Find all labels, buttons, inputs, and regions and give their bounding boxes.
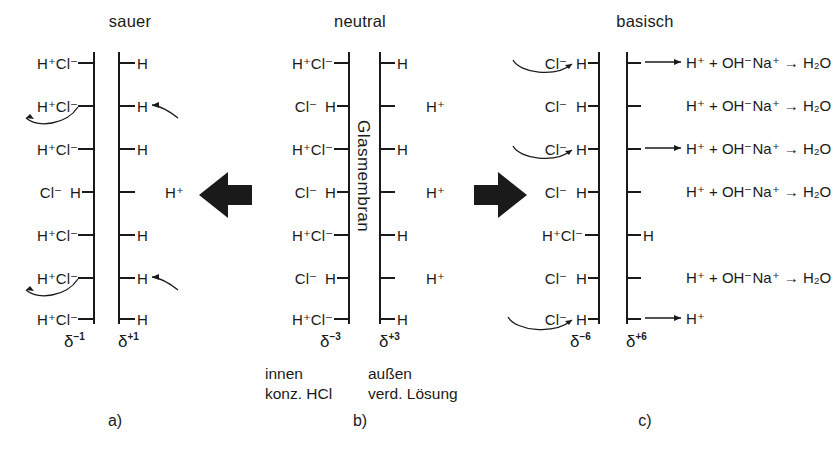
panel-a-row3-left: H⁺Cl⁻ xyxy=(0,142,78,157)
panel-b-row3-inner-tick xyxy=(334,148,349,150)
panel-b-row6-inner-tick xyxy=(337,277,349,279)
panel-c-delta-inner-charge: −6 xyxy=(579,331,590,342)
panel-b-delta-outer-charge: +3 xyxy=(388,331,399,342)
panel-c-row2-left: Cl⁻ xyxy=(510,99,567,114)
panel-b-caption: b) xyxy=(260,412,460,430)
panel-b-row3-outer: H xyxy=(397,142,408,157)
panel-c-row4-outer-tick xyxy=(627,191,641,193)
panel-c-row2-outer-tick xyxy=(627,105,641,107)
panel-a-row6-outer-tick xyxy=(119,277,135,279)
panel-b-row5-left: H⁺Cl⁻ xyxy=(260,228,333,243)
panel-b-row1-outer: H xyxy=(397,56,408,71)
panel-c-row1-left: Cl⁻ xyxy=(510,56,567,71)
panel-a-row7-inner-tick xyxy=(78,318,94,320)
panel-c-row7-inner-tick xyxy=(588,318,599,320)
panel-b-delta-outer: δ+3 xyxy=(379,332,400,352)
panel-basisch: basisch Cl⁻ H H⁺ + OH⁻Na⁺ → H₂O Cl⁻ H H⁺… xyxy=(500,0,836,453)
panel-c-row5-outer-tick xyxy=(627,234,641,236)
panel-c-row3-inner: H xyxy=(576,142,587,157)
panel-c-row6-inner: H xyxy=(576,271,587,286)
panel-b-row4-inner: H xyxy=(325,185,336,200)
panel-c-row7-inner: H xyxy=(576,312,587,327)
panel-c-row1-reaction: H⁺ + OH⁻Na⁺ → H₂O xyxy=(686,55,831,70)
panel-a-row1-outer-tick xyxy=(119,62,135,64)
panel-a-row2-outer: H xyxy=(137,99,148,114)
panel-b-membrane-inner-line xyxy=(348,52,350,324)
panel-b-membrane-label: Glasmembran xyxy=(353,120,373,232)
panel-a-row2-left: H⁺Cl⁻ xyxy=(0,99,78,114)
panel-c-row1-inner-tick xyxy=(588,62,599,64)
panel-b-row7-inner-tick xyxy=(334,318,349,320)
panel-c-row4-left: Cl⁻ xyxy=(510,185,567,200)
panel-b-note-outer-line1: außen xyxy=(368,364,458,384)
panel-b-row7-outer-tick xyxy=(380,318,395,320)
panel-a-row5-outer: H xyxy=(137,228,148,243)
panel-c-row6-reaction: H⁺ + OH⁻Na⁺ → H₂O xyxy=(686,270,831,285)
panel-b-row7-left: H⁺Cl⁻ xyxy=(260,312,333,327)
panel-b-row6-outer-tick xyxy=(380,277,395,279)
panel-a-row1-inner-tick xyxy=(78,62,94,64)
panel-b-note-inner-line1: innen xyxy=(265,364,332,384)
panel-b-row4-outer-tick xyxy=(380,191,395,193)
panel-c-caption: c) xyxy=(500,412,790,430)
panel-b-row6-right: H⁺ xyxy=(426,271,445,286)
panel-a-row6-outer: H xyxy=(137,271,148,286)
panel-a-delta-inner: δ−1 xyxy=(64,332,85,352)
panel-c-delta-outer: δ+6 xyxy=(626,332,647,352)
panel-a-row7-outer: H xyxy=(137,312,148,327)
panel-a-row3-outer-tick xyxy=(119,148,135,150)
panel-a-caption: a) xyxy=(0,412,230,430)
panel-c-row7-reaction: H⁺ xyxy=(686,311,705,326)
panel-a-membrane-outer-line xyxy=(118,52,120,324)
panel-c-row2-inner-tick xyxy=(588,105,599,107)
panel-a-row3-outer: H xyxy=(137,142,148,157)
panel-b-row2-inner-tick xyxy=(337,105,349,107)
panel-a-row3-inner-tick xyxy=(78,148,94,150)
panel-b-delta-inner-charge: −3 xyxy=(329,331,340,342)
panel-b-note-inner: innen konz. HCl xyxy=(265,364,332,404)
panel-neutral: neutral Glasmembran H⁺Cl⁻ H Cl⁻ H H⁺ H⁺C… xyxy=(260,0,490,453)
panel-c-row6-outer-tick xyxy=(627,277,641,279)
panel-c-title: basisch xyxy=(500,12,790,31)
panel-a-row1-left: H⁺Cl⁻ xyxy=(0,56,78,71)
panel-c-row6-inner-tick xyxy=(588,277,599,279)
panel-c-row3-reaction: H⁺ + OH⁻Na⁺ → H₂O xyxy=(686,141,831,156)
panel-b-row3-left: H⁺Cl⁻ xyxy=(260,142,333,157)
panel-a-row5-outer-tick xyxy=(119,234,135,236)
panel-b-title: neutral xyxy=(260,12,460,31)
panel-a-row6-inner-tick xyxy=(78,277,94,279)
panel-c-row3-outer-tick xyxy=(627,148,641,150)
panel-b-row4-right: H⁺ xyxy=(426,185,445,200)
panel-a-row4-inner-tick xyxy=(82,191,94,193)
panel-b-row2-outer-tick xyxy=(380,105,395,107)
panel-a-row2-inner-tick xyxy=(78,105,94,107)
panel-b-row2-inner: H xyxy=(325,99,336,114)
panel-b-note-inner-line2: konz. HCl xyxy=(265,384,332,404)
panel-b-row5-outer: H xyxy=(397,228,408,243)
panel-c-row5-left: H⁺Cl⁻ xyxy=(510,228,583,243)
panel-c-row4-reaction: H⁺ + OH⁻Na⁺ → H₂O xyxy=(686,184,831,199)
panel-a-row4-right: H⁺ xyxy=(165,185,184,200)
panel-b-row4-left: Cl⁻ xyxy=(260,185,317,200)
panel-c-delta-inner: δ−6 xyxy=(570,332,591,352)
panel-b-row3-outer-tick xyxy=(380,148,395,150)
panel-c-row6-left: Cl⁻ xyxy=(510,271,567,286)
panel-b-row4-inner-tick xyxy=(337,191,349,193)
panel-a-row4-left: Cl⁻ xyxy=(0,185,62,200)
panel-b-membrane-outer-line xyxy=(379,52,381,324)
panel-b-row5-inner-tick xyxy=(334,234,349,236)
panel-a-title: sauer xyxy=(0,12,260,31)
panel-c-row4-inner-tick xyxy=(588,191,599,193)
panel-a-row6-left: H⁺Cl⁻ xyxy=(0,271,78,286)
panel-b-delta-inner: δ−3 xyxy=(320,332,341,352)
panel-a-row5-left: H⁺Cl⁻ xyxy=(0,228,78,243)
panel-a-row1-outer: H xyxy=(137,56,148,71)
panel-b-row6-inner: H xyxy=(325,271,336,286)
panel-c-membrane-inner-line xyxy=(598,52,600,324)
panel-b-row7-outer: H xyxy=(397,312,408,327)
panel-a-row2-outer-tick xyxy=(119,105,135,107)
panel-a-delta-outer: δ+1 xyxy=(118,332,139,352)
panel-b-row1-inner-tick xyxy=(334,62,349,64)
panel-a-membrane-inner-line xyxy=(93,52,95,324)
panel-b-row2-right: H⁺ xyxy=(426,99,445,114)
